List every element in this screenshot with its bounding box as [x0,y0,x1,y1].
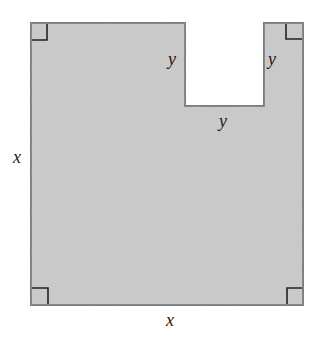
label-notch-left: y [166,49,176,69]
label-bottom-side: x [165,310,174,330]
label-left-side: x [12,147,21,167]
notched-square-diagram: x x y y y [0,0,319,342]
label-notch-bottom: y [217,111,227,131]
shape-texture [31,23,303,305]
label-notch-right: y [266,49,276,69]
